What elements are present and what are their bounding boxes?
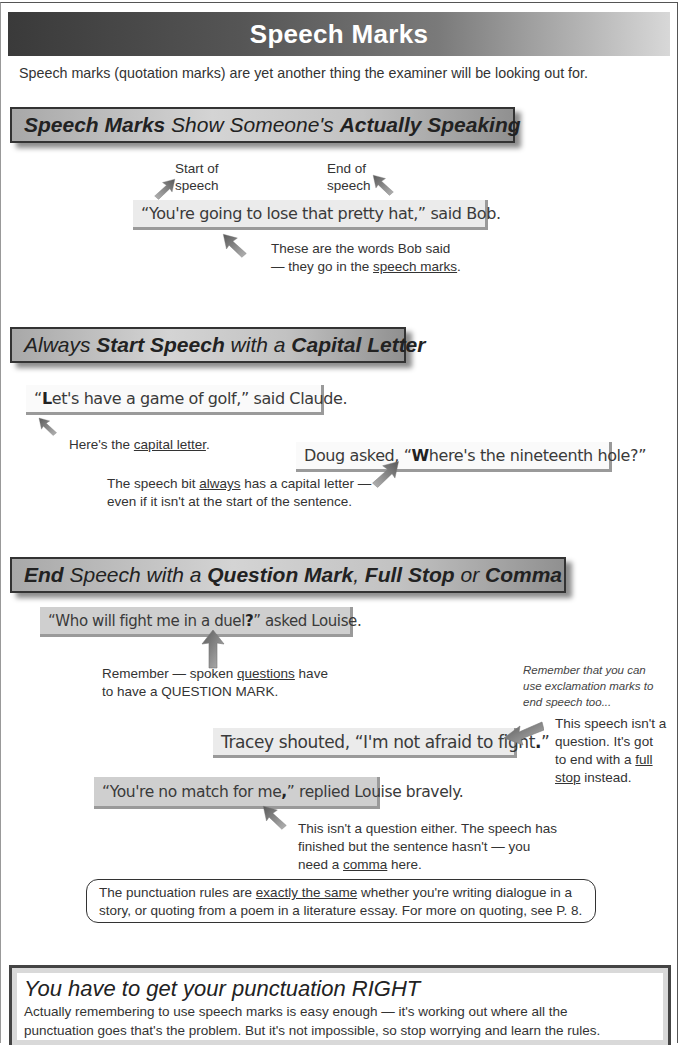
arrow-up-left-icon bbox=[38, 417, 66, 445]
page-title-bar: Speech Marks bbox=[8, 12, 670, 56]
arrow-up-left-icon bbox=[222, 233, 254, 265]
speech-example-bob: “You're going to lose that pretty hat,” … bbox=[133, 200, 488, 230]
example-text: ” replied Louise bravely. bbox=[287, 783, 463, 801]
example-text: Tracey shouted, “I'm not afraid to fight bbox=[221, 732, 535, 752]
note-line: The speech bit always has a capital lett… bbox=[107, 475, 371, 493]
capital-highlight: L bbox=[42, 389, 52, 408]
note-line: Remember that you can bbox=[523, 662, 653, 678]
heading-part: Speech Marks bbox=[24, 113, 165, 137]
note-line: This speech isn't a bbox=[555, 715, 666, 733]
intro-text: Speech marks (quotation marks) are yet a… bbox=[19, 65, 588, 81]
capital-highlight: W bbox=[412, 446, 429, 465]
note-line: question. It's got bbox=[555, 733, 666, 751]
note-line: The punctuation rules are exactly the sa… bbox=[99, 884, 583, 902]
heading-part: Always bbox=[24, 333, 96, 357]
summary-title: You have to get your punctuation RIGHT bbox=[24, 976, 656, 1002]
summary-line: punctuation goes that's the problem. But… bbox=[24, 1021, 656, 1040]
capital-letter-note: Here's the capital letter. bbox=[69, 436, 210, 454]
always-capital-note: The speech bit always has a capital lett… bbox=[107, 475, 371, 511]
note-line: to have a QUESTION MARK. bbox=[102, 683, 328, 701]
heading-part: Full Stop bbox=[365, 563, 455, 587]
speech-example-doug: Doug asked, “Where's the nineteenth hole… bbox=[296, 442, 612, 472]
speech-example-claude: “Let's have a game of golf,” said Claude… bbox=[26, 385, 324, 415]
heading-part: Speech with a bbox=[64, 563, 208, 587]
note-line: to end with a full bbox=[555, 751, 666, 769]
note-line: — they go in the speech marks. bbox=[271, 258, 461, 276]
note-line: even if it isn't at the start of the sen… bbox=[107, 493, 371, 511]
heading-part: Show Someone's bbox=[165, 113, 339, 137]
summary-body: Actually remembering to use speech marks… bbox=[24, 1002, 656, 1040]
note-line: Remember — spoken questions have bbox=[102, 665, 328, 683]
section-heading-actually-speaking: Speech Marks Show Someone's Actually Spe… bbox=[10, 107, 515, 143]
arrow-up-left-icon bbox=[262, 805, 294, 837]
note-line: story, or quoting from a poem in a liter… bbox=[99, 902, 583, 920]
heading-part: Question Mark bbox=[207, 563, 353, 587]
label-line: Start of bbox=[175, 160, 219, 177]
example-text: “ bbox=[34, 389, 42, 408]
heading-part: End bbox=[24, 563, 64, 587]
exclamation-note: Remember that you can use exclamation ma… bbox=[523, 662, 653, 710]
end-of-speech-label: End of speech bbox=[327, 160, 371, 194]
example-text: here's the nineteenth hole?” bbox=[429, 446, 646, 465]
label-line: speech bbox=[175, 177, 219, 194]
arrow-left-icon bbox=[504, 720, 544, 746]
section-heading-capital-letter: Always Start Speech with a Capital Lette… bbox=[10, 327, 406, 363]
note-line: These are the words Bob said bbox=[271, 240, 461, 258]
start-of-speech-label: Start of speech bbox=[175, 160, 219, 194]
punctuation-rules-note: The punctuation rules are exactly the sa… bbox=[86, 879, 596, 923]
question-mark-note: Remember — spoken questions have to have… bbox=[102, 665, 328, 701]
example-text: “You're going to lose that pretty hat,” … bbox=[141, 204, 501, 223]
section-heading-end-speech: End Speech with a Question Mark, Full St… bbox=[10, 557, 566, 593]
note-line: end speech too... bbox=[523, 694, 653, 710]
example-text: “Who will fight me in a duel bbox=[48, 612, 245, 630]
comma-note: This isn't a question either. The speech… bbox=[298, 820, 557, 874]
arrow-up-icon bbox=[200, 630, 226, 670]
example-text: “You're no match for me bbox=[102, 783, 281, 801]
note-line: finished but the sentence hasn't — you bbox=[298, 838, 557, 856]
summary-line: Actually remembering to use speech marks… bbox=[24, 1002, 656, 1021]
label-line: End of bbox=[327, 160, 371, 177]
question-mark-highlight: ? bbox=[245, 612, 253, 630]
heading-part: , bbox=[353, 563, 365, 587]
heading-part: Start Speech bbox=[96, 333, 224, 357]
note-line: This isn't a question either. The speech… bbox=[298, 820, 557, 838]
heading-part: Actually Speaking bbox=[340, 113, 521, 137]
summary-box: You have to get your punctuation RIGHT A… bbox=[9, 965, 671, 1045]
note-line: use exclamation marks to bbox=[523, 678, 653, 694]
speech-example-tracey: Tracey shouted, “I'm not afraid to fight… bbox=[213, 728, 517, 758]
example-text: et's have a game of golf,” said Claude. bbox=[52, 389, 348, 408]
label-line: speech bbox=[327, 177, 371, 194]
heading-part: Capital Letter bbox=[291, 333, 425, 357]
speech-example-louise-comma: “You're no match for me,” replied Louise… bbox=[94, 777, 380, 809]
heading-part: with a bbox=[225, 333, 292, 357]
page-title: Speech Marks bbox=[250, 19, 428, 50]
full-stop-note: This speech isn't a question. It's got t… bbox=[555, 715, 666, 787]
heading-part: or bbox=[455, 563, 485, 587]
note-line: stop instead. bbox=[555, 769, 666, 787]
note-line: need a comma here. bbox=[298, 856, 557, 874]
speech-example-louise-question: “Who will fight me in a duel?” asked Lou… bbox=[40, 607, 353, 637]
heading-part: Comma bbox=[485, 563, 562, 587]
words-bob-said-note: These are the words Bob said — they go i… bbox=[271, 240, 461, 276]
example-text: ” asked Louise. bbox=[253, 612, 361, 630]
